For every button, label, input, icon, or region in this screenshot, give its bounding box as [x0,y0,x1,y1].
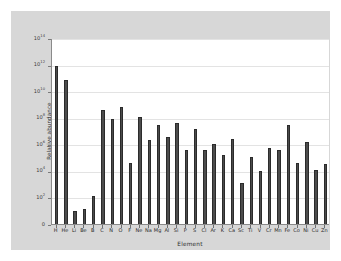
figure: Relative abundance Element 0102104106108… [0,0,341,261]
bar [203,150,206,224]
bar [305,142,308,224]
bar [185,150,188,224]
bar [259,171,262,224]
bar [166,137,169,224]
chart-panel: Relative abundance Element 0102104106108… [11,11,330,250]
x-axis-tick-label: Zn [317,228,331,233]
y-axis-tick [48,225,51,226]
y-axis-tick-label: 106 [11,142,45,147]
bar [120,107,123,224]
bar [101,110,104,224]
bar [212,144,215,224]
bar [222,155,225,224]
gridline [52,66,329,67]
y-axis-tick-label: 1012 [11,62,45,67]
bar [277,150,280,224]
y-axis-tick-label: 104 [11,168,45,173]
bar [83,209,86,224]
bar [231,139,234,224]
x-axis-title: Element [51,241,329,247]
bar [111,119,114,224]
bar [129,163,132,224]
bar [324,164,327,224]
y-axis-tick-label: 0 [11,222,45,227]
gridline [52,92,329,93]
gridline [52,119,329,120]
y-axis-tick-label: 1010 [11,89,45,94]
bar [268,148,271,224]
bar [314,170,317,224]
bar [175,123,178,224]
bar [148,140,151,224]
bar [55,66,58,224]
bar [240,183,243,224]
bar [138,117,141,224]
bar [194,129,197,224]
bar [92,196,95,224]
plot-area [51,39,329,225]
y-axis-tick-label: 1014 [11,36,45,41]
y-axis-tick-label: 108 [11,115,45,120]
y-axis-tick-label: 102 [11,195,45,200]
bar [157,125,160,224]
gridline [52,39,329,40]
bar [64,80,67,224]
bar [250,157,253,224]
bar [296,163,299,224]
bar [287,125,290,224]
bar [73,211,76,224]
